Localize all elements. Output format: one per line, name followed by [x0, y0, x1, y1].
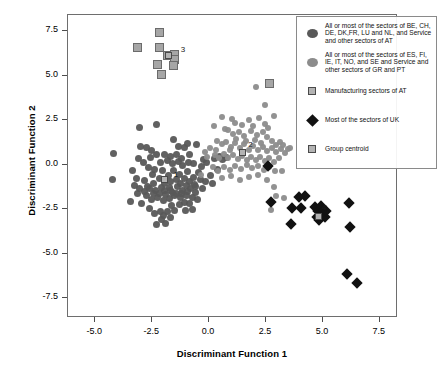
- data-point: [109, 176, 116, 183]
- y-tick-label: 0.0: [20, 158, 58, 168]
- data-point: [238, 166, 244, 172]
- data-point: [271, 113, 277, 119]
- legend-item: All or most of the sectors of ES, FI, IE…: [299, 49, 434, 75]
- data-point: [207, 172, 214, 179]
- data-point: [221, 164, 227, 170]
- data-point: [138, 200, 145, 207]
- data-point: [255, 172, 261, 178]
- legend-item: Group centroid: [299, 136, 434, 162]
- data-point: [193, 141, 200, 148]
- data-point: [211, 123, 217, 129]
- legend-circle-icon: [307, 58, 318, 67]
- data-point: [167, 214, 174, 221]
- data-point: [157, 159, 164, 166]
- x-tick-mark: [94, 317, 95, 322]
- legend-symbol: [299, 107, 325, 133]
- data-point: [127, 198, 134, 205]
- group-centroid: [239, 149, 246, 156]
- group-centroid: [315, 213, 322, 220]
- data-point: [227, 167, 233, 173]
- data-point: [136, 124, 143, 131]
- data-point: [262, 102, 268, 108]
- legend-symbol: [299, 20, 325, 46]
- data-point: [158, 216, 165, 223]
- y-tick-label: 5.0: [20, 69, 58, 79]
- chart-legend: All or most of the sectors of BE, CH, DE…: [296, 16, 437, 169]
- group-number-label: 1: [174, 170, 178, 179]
- data-point: [237, 177, 243, 183]
- data-point: [190, 160, 197, 167]
- legend-square-icon: [308, 145, 316, 153]
- legend-square-icon: [308, 87, 316, 95]
- discriminant-scatter-figure: Discriminant Function 2 Discriminant Fun…: [0, 0, 439, 372]
- data-point: [189, 206, 196, 213]
- data-point: [271, 184, 277, 190]
- y-tick-label: 7.5: [20, 24, 58, 34]
- data-point: [351, 278, 362, 289]
- data-point: [151, 166, 158, 173]
- group-centroid: [161, 176, 168, 183]
- data-point: [153, 151, 160, 158]
- y-tick-label: -5.0: [20, 247, 58, 257]
- data-point: [157, 70, 166, 79]
- data-point: [228, 173, 234, 179]
- data-point: [343, 197, 354, 208]
- data-point: [279, 168, 285, 174]
- legend-item-label: Manufacturing sectors of AT: [325, 87, 409, 95]
- data-point: [345, 221, 356, 232]
- data-point: [184, 140, 191, 147]
- group-number-label: 3: [181, 45, 185, 54]
- data-point: [184, 188, 191, 195]
- data-point: [246, 174, 252, 180]
- y-tick-label: -7.5: [20, 291, 58, 301]
- legend-item: Manufacturing sectors of AT: [299, 78, 434, 104]
- data-point: [202, 149, 208, 155]
- data-point: [341, 269, 352, 280]
- group-number-label: 4: [322, 203, 326, 212]
- data-point: [219, 114, 225, 120]
- data-point: [265, 125, 271, 131]
- data-point: [153, 60, 162, 69]
- data-point: [135, 155, 142, 162]
- data-point: [253, 84, 259, 90]
- x-tick-label: -5.0: [72, 326, 116, 336]
- data-point: [199, 185, 206, 192]
- legend-diamond-icon: [306, 114, 319, 127]
- data-point: [281, 195, 287, 201]
- legend-circle-icon: [307, 29, 318, 38]
- legend-symbol: [299, 78, 325, 104]
- legend-item-label: All or most of the sectors of ES, FI, IE…: [325, 51, 434, 74]
- x-tick-label: 7.5: [357, 326, 401, 336]
- data-point: [129, 167, 136, 174]
- x-tick-mark: [379, 317, 380, 322]
- x-tick-mark: [151, 317, 152, 322]
- data-point: [186, 151, 193, 158]
- x-tick-mark: [208, 317, 209, 322]
- data-point: [194, 196, 201, 203]
- data-point: [182, 207, 189, 214]
- x-axis-title: Discriminant Function 1: [67, 348, 397, 359]
- data-point: [155, 28, 164, 37]
- data-point: [287, 145, 293, 151]
- data-point: [133, 175, 140, 182]
- legend-item: Most of the sectors of UK: [299, 107, 434, 133]
- data-point: [285, 219, 296, 230]
- legend-item: All or most of the sectors of BE, CH, DE…: [299, 20, 434, 46]
- data-point: [215, 168, 221, 174]
- data-point: [153, 121, 160, 128]
- y-tick-label: -2.5: [20, 202, 58, 212]
- data-point: [169, 61, 178, 70]
- data-point: [296, 203, 307, 214]
- data-point: [255, 163, 261, 169]
- legend-symbol: [299, 136, 325, 162]
- data-point: [209, 180, 216, 187]
- x-tick-label: 2.5: [243, 326, 287, 336]
- legend-item-label: Group centroid: [325, 145, 371, 153]
- data-point: [233, 136, 239, 142]
- x-tick-label: -2.5: [129, 326, 173, 336]
- x-tick-mark: [265, 317, 266, 322]
- group-number-label: 2: [248, 140, 252, 149]
- data-point: [273, 193, 279, 199]
- legend-symbol: [299, 49, 325, 75]
- legend-item-label: All or most of the sectors of BE, CH, DE…: [325, 22, 434, 45]
